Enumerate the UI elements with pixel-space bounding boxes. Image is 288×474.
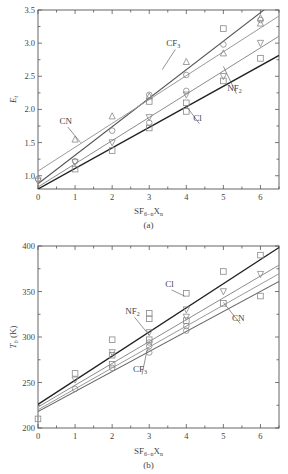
y-tick-label: 250 [22, 378, 35, 388]
fit-line-cf3 [38, 0, 279, 184]
annotation-leader-line [68, 127, 81, 143]
figure: 01234561.01.52.02.53.03.5EtSF6−nXn(a)CF3… [0, 0, 288, 474]
panel-label: (a) [144, 220, 154, 230]
y-tick-label: 350 [22, 287, 35, 297]
triangle-down-marker [220, 73, 226, 79]
fit-line-nf2 [38, 265, 279, 407]
x-tick-label: 1 [73, 192, 77, 202]
triangle-down-marker [220, 289, 226, 295]
x-tick-label: 1 [73, 431, 77, 441]
x-tick-label: 0 [36, 431, 40, 441]
y-tick-label: 2.5 [24, 71, 35, 81]
square-marker [258, 252, 264, 258]
x-tick-label: 2 [110, 192, 114, 202]
x-tick-label: 5 [221, 192, 225, 202]
y-tick-label: 3.5 [24, 5, 35, 15]
series-label-cf3: CF3 [133, 364, 147, 375]
x-tick-label: 2 [110, 431, 114, 441]
square-marker [184, 109, 190, 115]
y-tick-label: 300 [22, 332, 35, 342]
annotation-leader-line [135, 317, 150, 335]
annotation-leader-line [162, 49, 175, 69]
fit-line-cn [38, 16, 279, 171]
fit-line-cn [38, 274, 279, 410]
x-axis-title: SF6−nXn [134, 446, 163, 457]
square-marker [184, 291, 190, 297]
square-marker [146, 311, 152, 317]
plot-frame [38, 10, 279, 189]
y-tick-label: 1.5 [24, 138, 35, 148]
panel-label: (b) [143, 460, 154, 470]
circle-marker [184, 72, 190, 78]
series-label-cn: CN [232, 313, 245, 323]
series-label-cf3: CF3 [166, 38, 180, 49]
square-marker [109, 337, 115, 343]
y-tick-label: 1.0 [24, 171, 35, 181]
y-tick-label: 3.0 [24, 38, 35, 48]
square-marker [72, 371, 78, 377]
square-marker [258, 56, 264, 62]
x-tick-label: 3 [147, 192, 151, 202]
square-marker [258, 293, 264, 299]
y-tick-label: 2.0 [24, 104, 35, 114]
x-tick-label: 0 [36, 192, 40, 202]
series-label-nf2: NF2 [125, 306, 140, 317]
y-axis-title: Et [8, 96, 19, 105]
chart-panel-a: 01234561.01.52.02.53.03.5EtSF6−nXn(a)CF3… [8, 0, 279, 230]
square-marker [221, 26, 227, 32]
triangle-up-marker [183, 58, 189, 64]
x-tick-label: 4 [184, 431, 189, 441]
circle-marker [221, 42, 227, 48]
square-marker [184, 100, 190, 106]
circle-marker [184, 88, 190, 94]
series-label-cl: Cl [193, 113, 202, 123]
x-axis-title: SF6−nXn [134, 206, 163, 217]
plot-frame [38, 246, 279, 428]
y-tick-label: 400 [22, 241, 35, 251]
triangle-down-marker [257, 40, 263, 46]
series-label-cn: CN [60, 116, 73, 126]
series-label-nf2: NF2 [227, 83, 242, 94]
y-tick-label: 200 [22, 423, 35, 433]
x-tick-label: 6 [258, 192, 262, 202]
square-marker [146, 316, 152, 322]
x-tick-label: 6 [258, 431, 262, 441]
x-tick-label: 4 [184, 192, 189, 202]
x-tick-label: 5 [221, 431, 225, 441]
series-label-cl: Cl [165, 279, 174, 289]
y-axis-title: Tb (K) [8, 326, 19, 349]
fit-line-cl [38, 55, 279, 189]
circle-marker [109, 128, 115, 134]
annotation-leader-line [172, 290, 185, 296]
x-tick-label: 3 [147, 431, 151, 441]
chart-panel-b: 0123456200250300350400Tb (K)SF6−nXn(b)Cl… [8, 241, 279, 470]
fit-line-cf3 [38, 281, 279, 411]
triangle-up-marker [109, 113, 115, 119]
square-marker [221, 269, 227, 275]
